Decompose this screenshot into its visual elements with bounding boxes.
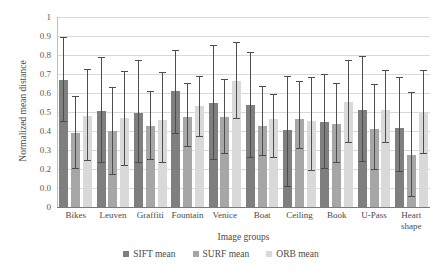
- error-bar-cap-high: [284, 76, 291, 77]
- bar-slot[interactable]: [171, 17, 180, 207]
- error-bar-cap-low: [109, 174, 116, 175]
- error-bar-cap-high: [359, 56, 366, 57]
- error-bar-cap-low: [60, 121, 67, 122]
- error-bar: [101, 58, 102, 163]
- bar-slot[interactable]: [283, 17, 292, 207]
- x-tick-label-line: Leuven: [94, 210, 131, 221]
- bar-slot[interactable]: [195, 17, 204, 207]
- x-tick-label-line: Book: [318, 210, 355, 221]
- bar-slot[interactable]: [381, 17, 390, 207]
- x-tick-label-line: Ceiling: [281, 210, 318, 221]
- bar-slot[interactable]: [344, 17, 353, 207]
- x-tick-label-line: Fountain: [169, 210, 206, 221]
- x-tick-label: Boat: [243, 210, 280, 231]
- error-bar: [213, 46, 214, 159]
- error-bar: [112, 88, 113, 174]
- bar-slot[interactable]: [146, 17, 155, 207]
- error-bar-cap-high: [84, 69, 91, 70]
- error-bar-cap-low: [135, 162, 142, 163]
- bar-slot[interactable]: [332, 17, 341, 207]
- error-bar-cap-low: [159, 162, 166, 163]
- error-bar: [250, 53, 251, 158]
- error-bar-cap-high: [408, 92, 415, 93]
- error-bar-cap-high: [270, 94, 277, 95]
- error-bar-cap-high: [72, 96, 79, 97]
- legend-label: SURF mean: [203, 249, 250, 259]
- bar-slot[interactable]: [183, 17, 192, 207]
- error-bar-cap-high: [60, 37, 67, 38]
- error-bar: [324, 75, 325, 169]
- bar-slot[interactable]: [258, 17, 267, 207]
- error-bar-cap-low: [72, 168, 79, 169]
- bar-slot[interactable]: [395, 17, 404, 207]
- bar-slot[interactable]: [295, 17, 304, 207]
- error-bar-cap-low: [221, 153, 228, 154]
- x-tick-label-line: U-Pass: [355, 210, 392, 221]
- legend-label: SIFT mean: [133, 249, 175, 259]
- error-bar-cap-low: [210, 159, 217, 160]
- bar-slot[interactable]: [220, 17, 229, 207]
- y-tick-label: 0: [17, 203, 51, 212]
- bar-slot[interactable]: [358, 17, 367, 207]
- bar-slot[interactable]: [370, 17, 379, 207]
- error-bar: [311, 78, 312, 171]
- bar-slot[interactable]: [158, 17, 167, 207]
- bar-slot[interactable]: [71, 17, 80, 207]
- bar-slot[interactable]: [407, 17, 416, 207]
- bar-slot[interactable]: [232, 17, 241, 207]
- error-bar: [87, 70, 88, 161]
- error-bar: [75, 97, 76, 169]
- bar-slot[interactable]: [419, 17, 428, 207]
- bar-group: [281, 17, 318, 207]
- chart-legend: SIFT meanSURF meanORB mean: [0, 249, 442, 259]
- bar-slot[interactable]: [209, 17, 218, 207]
- error-bar: [262, 87, 263, 155]
- error-bar-cap-low: [382, 142, 389, 143]
- error-bar: [138, 61, 139, 164]
- error-bar-cap-low: [259, 155, 266, 156]
- error-bar-cap-high: [196, 76, 203, 77]
- legend-item[interactable]: SURF mean: [193, 249, 250, 259]
- bar-slot[interactable]: [269, 17, 278, 207]
- error-bar-cap-high: [333, 83, 340, 84]
- bar-slot[interactable]: [120, 17, 129, 207]
- bar-group: [318, 17, 355, 207]
- error-bar-cap-high: [121, 71, 128, 72]
- x-axis-tick-labels: BikesLeuvenGraffitiFountainVeniceBoatCei…: [57, 210, 430, 231]
- error-bar-cap-high: [147, 91, 154, 92]
- error-bar-cap-low: [184, 146, 191, 147]
- bar-slot[interactable]: [59, 17, 68, 207]
- bar-slot[interactable]: [246, 17, 255, 207]
- x-tick-label: Fountain: [169, 210, 206, 231]
- error-bar-cap-low: [284, 186, 291, 187]
- bar-chart: 10.90.80.70.60.50.40.30.20.00 BikesLeuve…: [0, 0, 442, 274]
- x-tick-label-line: Bikes: [57, 210, 94, 221]
- error-bar: [385, 71, 386, 143]
- error-bar-cap-high: [247, 52, 254, 53]
- legend-item[interactable]: ORB mean: [266, 249, 318, 259]
- error-bar: [287, 77, 288, 187]
- bar-slot[interactable]: [97, 17, 106, 207]
- error-bar-cap-high: [259, 86, 266, 87]
- bar-slot[interactable]: [320, 17, 329, 207]
- error-bar-cap-high: [233, 42, 240, 43]
- bar-group: [57, 17, 94, 207]
- bar-slot[interactable]: [307, 17, 316, 207]
- legend-label: ORB mean: [276, 249, 318, 259]
- bar-group: [206, 17, 243, 207]
- legend-item[interactable]: SIFT mean: [123, 249, 175, 259]
- error-bar-cap-low: [345, 142, 352, 143]
- x-tick-label: Leuven: [94, 210, 131, 231]
- x-tick-label: U-Pass: [355, 210, 392, 231]
- bar-slot[interactable]: [83, 17, 92, 207]
- error-bar-cap-low: [196, 136, 203, 137]
- error-bar-cap-low: [172, 133, 179, 134]
- bar-group: [94, 17, 131, 207]
- error-bar: [150, 92, 151, 159]
- bar-slot[interactable]: [108, 17, 117, 207]
- error-bar: [299, 82, 300, 149]
- legend-swatch-icon: [123, 251, 129, 257]
- bar-slot[interactable]: [134, 17, 143, 207]
- x-tick-label-line: Heart: [393, 210, 430, 221]
- error-bar-cap-high: [135, 60, 142, 61]
